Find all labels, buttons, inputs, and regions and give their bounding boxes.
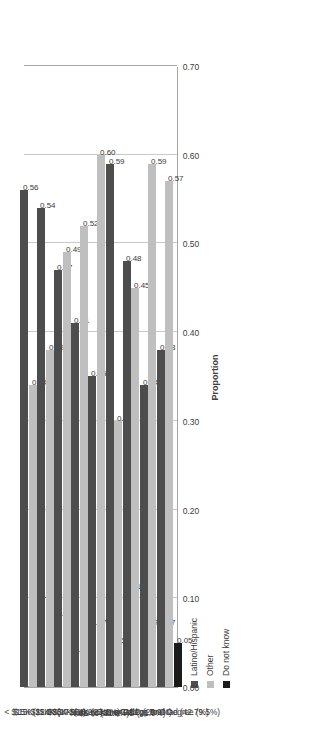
bar-row: 0.41 [71,66,79,687]
bar [131,288,139,687]
bar [63,252,71,687]
bar-row: 0.47 [54,66,62,687]
bar [140,385,148,687]
bar-chart-figure: Latino/HispanicOtherDo not know < $15K (… [0,0,324,736]
value-tick-label: 0.00 [183,683,200,693]
value-tick-label: 0.60 [183,151,200,161]
bar-row: 0.57 [165,66,173,687]
bar-row: 0.52 [80,66,88,687]
value-tick-label: 0.40 [183,328,200,338]
bar [20,190,28,687]
bar-row: 0.60 [97,66,105,687]
bar [148,164,156,687]
bar [54,270,62,687]
bar-row: 0.38 [46,66,54,687]
value-tick-label: 0.10 [183,594,200,604]
bar [123,261,131,687]
value-axis-title: Proportion [210,67,220,688]
bar-row: 0.34 [140,66,148,687]
bar-series-container: 0.560.340.100.540.380.080.470.490.040.41… [24,67,177,687]
bar-row: 0.34 [29,66,37,687]
chart-figure-rotator: Latino/HispanicOtherDo not know < $15K (… [0,0,324,736]
bar-row: 0.30 [114,66,122,687]
bar [46,350,54,687]
bar-row: 0.05 [174,66,182,687]
value-axis-ticks: 0.000.100.200.300.400.500.600.70 [182,67,208,688]
bar [174,643,182,687]
bar-row: 0.48 [123,66,131,687]
bar [29,385,37,687]
legend-swatch-icon [223,681,230,688]
bar-row: 0.54 [37,66,45,687]
bar [71,323,79,687]
bar [157,350,165,687]
bar-row: 0.45 [131,66,139,687]
value-tick-label: 0.50 [183,239,200,249]
category-axis-labels: < $15K (11.1%)$15K-$24K (17.9%)$25K-$34K… [24,690,178,736]
bar-row: 0.56 [20,66,28,687]
bar-row: 0.59 [148,66,156,687]
value-tick-label: 0.30 [183,417,200,427]
value-tick-label: 0.70 [183,62,200,72]
value-tick-label: 0.20 [183,506,200,516]
bar [114,421,122,687]
bar [165,181,173,687]
bar-row: 0.49 [63,66,71,687]
bar [80,226,88,687]
category-label-wrap: Grad or Prof Degree (9.5%) [161,690,178,736]
plot-area: 0.560.340.100.540.380.080.470.490.040.41… [24,67,178,688]
bar-row: 0.38 [157,66,165,687]
bar [37,208,45,687]
legend-item: Do not know [220,618,232,688]
bar [106,164,114,687]
bar-row: 0.35 [88,66,96,687]
legend-label: Do not know [222,629,231,676]
bar [88,377,96,688]
bar [97,155,105,687]
category-label: Grad or Prof Degree (9.5%) [119,708,220,717]
bar-row: 0.59 [106,66,114,687]
